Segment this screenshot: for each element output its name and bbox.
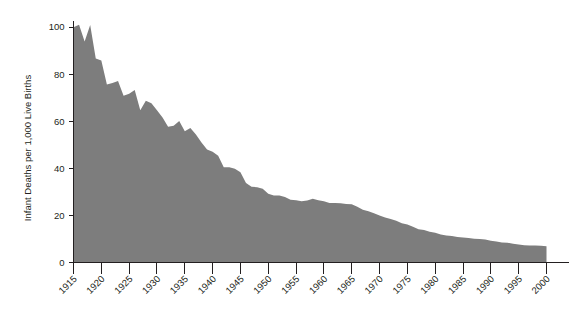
y-tick-label: 80 xyxy=(54,69,65,80)
x-tick-label: 1915 xyxy=(56,273,79,296)
x-tick-label: 1935 xyxy=(167,273,190,296)
x-tick-label: 1995 xyxy=(501,273,524,296)
x-tick-label: 1930 xyxy=(140,273,163,296)
x-tick-label: 1945 xyxy=(223,273,246,296)
x-tick-label: 1965 xyxy=(334,273,357,296)
x-tick-label: 1950 xyxy=(251,273,274,296)
x-tick-label: 1975 xyxy=(390,273,413,296)
x-axis: 1915192019251930193519401945195019551960… xyxy=(56,263,568,296)
y-tick-label: 40 xyxy=(54,163,65,174)
x-tick-label: 1970 xyxy=(362,273,385,296)
x-tick-label: 1980 xyxy=(418,273,441,296)
infant-mortality-area-chart: 020406080100 191519201925193019351940194… xyxy=(0,0,586,316)
y-tick-label: 0 xyxy=(59,257,64,268)
y-axis-ticks: 020406080100 xyxy=(49,21,74,268)
x-axis-ticks: 1915192019251930193519401945195019551960… xyxy=(56,263,552,296)
x-tick-label: 1925 xyxy=(112,273,135,296)
y-axis: 020406080100 xyxy=(49,21,74,268)
chart-canvas: 020406080100 191519201925193019351940194… xyxy=(0,0,586,316)
plot-area xyxy=(74,25,547,263)
x-tick-label: 1985 xyxy=(446,273,469,296)
y-tick-label: 100 xyxy=(49,21,65,32)
x-tick-label: 2000 xyxy=(529,273,552,296)
x-tick-label: 1960 xyxy=(307,273,330,296)
x-tick-label: 1990 xyxy=(474,273,497,296)
area-series-infant-deaths xyxy=(74,25,547,263)
y-tick-label: 60 xyxy=(54,116,65,127)
y-axis-title: Infant Deaths per 1,000 Live Births xyxy=(22,75,33,222)
y-tick-label: 20 xyxy=(54,210,65,221)
x-tick-label: 1940 xyxy=(195,273,218,296)
x-tick-label: 1920 xyxy=(84,273,107,296)
x-tick-label: 1955 xyxy=(279,273,302,296)
